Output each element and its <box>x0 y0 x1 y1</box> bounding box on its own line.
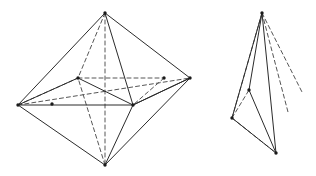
vertex-mid <box>247 88 250 91</box>
vertex-left <box>230 116 233 119</box>
vertex-bottom <box>103 163 106 166</box>
edge-apex-to-left <box>232 13 262 118</box>
edge-top-to-right <box>105 13 190 78</box>
edge-mid-to-bottom <box>249 90 276 153</box>
edge-left-to-inner_top_left <box>18 78 78 105</box>
left-octahedron-group <box>16 11 191 166</box>
edge-bottom-to-inner_bottom_right <box>105 105 133 165</box>
edge-left-to-right <box>18 78 190 105</box>
vertex-inner-top-left <box>76 76 79 79</box>
edge-apex-to-ray_end_b <box>262 13 288 112</box>
vertex-apex <box>260 11 263 14</box>
edge-apex-to-ray_end_a <box>262 13 302 92</box>
edge-top-to-left <box>18 13 105 105</box>
edge-top-to-inner_bottom_right <box>105 13 133 105</box>
vertex-left <box>16 103 19 106</box>
vertex-inner-top-right <box>162 76 165 79</box>
vertex-bottom <box>274 151 277 154</box>
edge-inner_top_right-to-inner_bottom_right <box>133 78 164 105</box>
right-tetrahedron-group <box>230 11 302 154</box>
edge-bottom-to-inner_top_left <box>78 78 105 165</box>
vertex-top <box>103 11 106 14</box>
vertex-inner-bottom-right <box>131 103 134 106</box>
edge-left-to-mid <box>232 90 249 118</box>
edge-top-to-inner_top_left <box>78 13 105 78</box>
edge-apex-to-bottom <box>262 13 276 153</box>
edge-bottom-to-left <box>18 105 105 165</box>
edge-bottom-to-right <box>105 78 190 165</box>
edge-inner_bottom_right-to-right <box>133 78 190 105</box>
vertex-right <box>188 76 191 79</box>
edge-left-to-bottom <box>232 118 276 153</box>
polyhedra-figure <box>0 0 316 176</box>
vertex-inner-bottom-left <box>50 102 53 105</box>
